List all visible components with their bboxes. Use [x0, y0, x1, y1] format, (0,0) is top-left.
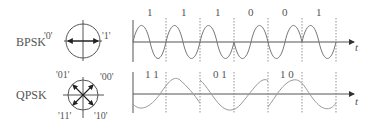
- qpsk-label-00: '00': [100, 71, 114, 82]
- arrow-icon: [83, 85, 93, 95]
- qpsk-symbol: 1 0: [280, 68, 294, 80]
- t-axis-label: t: [355, 95, 359, 107]
- bpsk-label-1: '1': [102, 30, 111, 41]
- bpsk-bit: 1: [316, 6, 322, 18]
- bpsk-bit: 0: [282, 6, 288, 18]
- qpsk-waveform: t 1 1 0 1 1 0: [133, 68, 359, 113]
- bpsk-constellation: '0' '1': [44, 20, 111, 61]
- qpsk-label-11: '11': [58, 110, 71, 121]
- bpsk-bit: 1: [215, 6, 221, 18]
- modulation-diagram: BPSK '0' '1' QPSK '01' '00' '11' '10' t: [0, 0, 370, 127]
- qpsk-symbol: 1 1: [145, 68, 159, 80]
- bpsk-label: BPSK: [16, 35, 46, 49]
- bpsk-label-0: '0': [44, 30, 53, 41]
- arrow-icon: [73, 85, 83, 95]
- qpsk-label: QPSK: [16, 88, 47, 102]
- bpsk-bit: 1: [181, 6, 187, 18]
- bpsk-waveform: t 1 1 1 0 0 1: [133, 6, 359, 62]
- t-axis-label: t: [355, 41, 359, 53]
- qpsk-constellation: '01' '00' '11' '10': [56, 69, 114, 121]
- qpsk-label-10: '10': [94, 110, 108, 121]
- qpsk-symbol: 0 1: [213, 68, 227, 80]
- qpsk-label-01: '01': [56, 69, 70, 80]
- arrow-icon: [73, 95, 83, 105]
- bpsk-bit: 0: [248, 6, 254, 18]
- arrow-icon: [83, 95, 93, 105]
- bpsk-bit: 1: [147, 6, 153, 18]
